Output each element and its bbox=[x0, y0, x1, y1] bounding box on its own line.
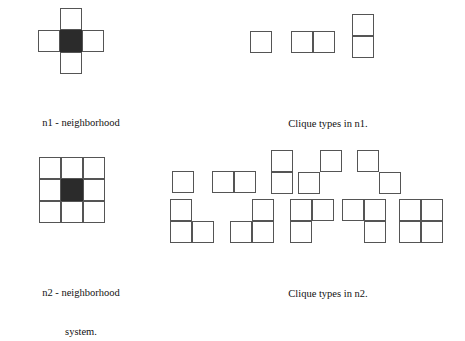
empty-cell bbox=[291, 31, 313, 53]
n2-caption-line-1: n2 - neighborhood bbox=[6, 286, 156, 299]
n2-caption-line-2: system. bbox=[6, 325, 156, 338]
empty-cell bbox=[39, 157, 61, 179]
empty-cell bbox=[399, 199, 421, 221]
n1-caption-line-1: n1 - neighborhood bbox=[6, 116, 156, 129]
empty-cell bbox=[399, 221, 421, 243]
empty-cell bbox=[252, 221, 274, 243]
empty-cell bbox=[61, 201, 83, 223]
empty-cell bbox=[320, 150, 342, 172]
empty-cell bbox=[364, 221, 386, 243]
n2-clique-square-2x2 bbox=[399, 199, 443, 243]
n2-clique-main-diagonal-pair bbox=[357, 150, 401, 194]
empty-cell bbox=[290, 199, 312, 221]
empty-cell bbox=[38, 30, 60, 52]
n2-clique-triomino-top-left-bottom-left-bottom-right bbox=[170, 199, 214, 243]
empty-cell bbox=[357, 150, 379, 172]
empty-cell bbox=[39, 179, 61, 201]
n1-clique-vertical-pair bbox=[352, 14, 374, 58]
n2-clique-horizontal-pair bbox=[212, 171, 256, 193]
n2-neighborhood-caption: n2 - neighborhood system. bbox=[6, 260, 156, 341]
empty-cell bbox=[298, 172, 320, 194]
empty-cell bbox=[290, 221, 312, 243]
filled-cell bbox=[61, 179, 83, 201]
empty-cell bbox=[271, 150, 293, 172]
n1-clique-single-cell bbox=[250, 31, 272, 53]
empty-cell bbox=[352, 14, 374, 36]
empty-cell bbox=[379, 172, 401, 194]
empty-cell bbox=[60, 8, 82, 30]
n2-clique-triomino-top-left-top-right-bottom-left bbox=[290, 199, 334, 243]
empty-cell bbox=[212, 171, 234, 193]
n1-cliques-caption-text: Clique types in n1. bbox=[258, 117, 398, 130]
empty-cell bbox=[82, 30, 104, 52]
empty-cell bbox=[312, 199, 334, 221]
n2-clique-anti-diagonal-pair bbox=[298, 150, 342, 194]
empty-cell bbox=[421, 199, 443, 221]
n2-clique-triomino-top-right-bottom-left-bottom-right bbox=[230, 199, 274, 243]
empty-cell bbox=[342, 199, 364, 221]
n2-clique-triomino-top-left-top-right-bottom-right bbox=[342, 199, 386, 243]
empty-cell bbox=[172, 171, 194, 193]
empty-cell bbox=[421, 221, 443, 243]
empty-cell bbox=[364, 199, 386, 221]
filled-cell bbox=[60, 30, 82, 52]
n1-neighborhood-diagram bbox=[38, 8, 104, 74]
empty-cell bbox=[230, 221, 252, 243]
empty-cell bbox=[39, 201, 61, 223]
n2-clique-vertical-pair bbox=[271, 150, 293, 194]
empty-cell bbox=[61, 157, 83, 179]
empty-cell bbox=[83, 179, 105, 201]
empty-cell bbox=[252, 199, 274, 221]
empty-cell bbox=[313, 31, 335, 53]
n2-cliques-caption-text: Clique types in n2. bbox=[258, 287, 398, 300]
n2-clique-types-caption: Clique types in n2. bbox=[258, 261, 398, 326]
empty-cell bbox=[170, 199, 192, 221]
empty-cell bbox=[352, 36, 374, 58]
empty-cell bbox=[83, 157, 105, 179]
n1-clique-horizontal-pair bbox=[291, 31, 335, 53]
n2-neighborhood-diagram bbox=[39, 157, 105, 223]
empty-cell bbox=[83, 201, 105, 223]
empty-cell bbox=[271, 172, 293, 194]
n2-clique-single-cell bbox=[172, 171, 194, 193]
empty-cell bbox=[192, 221, 214, 243]
n1-clique-types-caption: Clique types in n1. bbox=[258, 91, 398, 156]
empty-cell bbox=[60, 52, 82, 74]
empty-cell bbox=[234, 171, 256, 193]
empty-cell bbox=[170, 221, 192, 243]
empty-cell bbox=[250, 31, 272, 53]
